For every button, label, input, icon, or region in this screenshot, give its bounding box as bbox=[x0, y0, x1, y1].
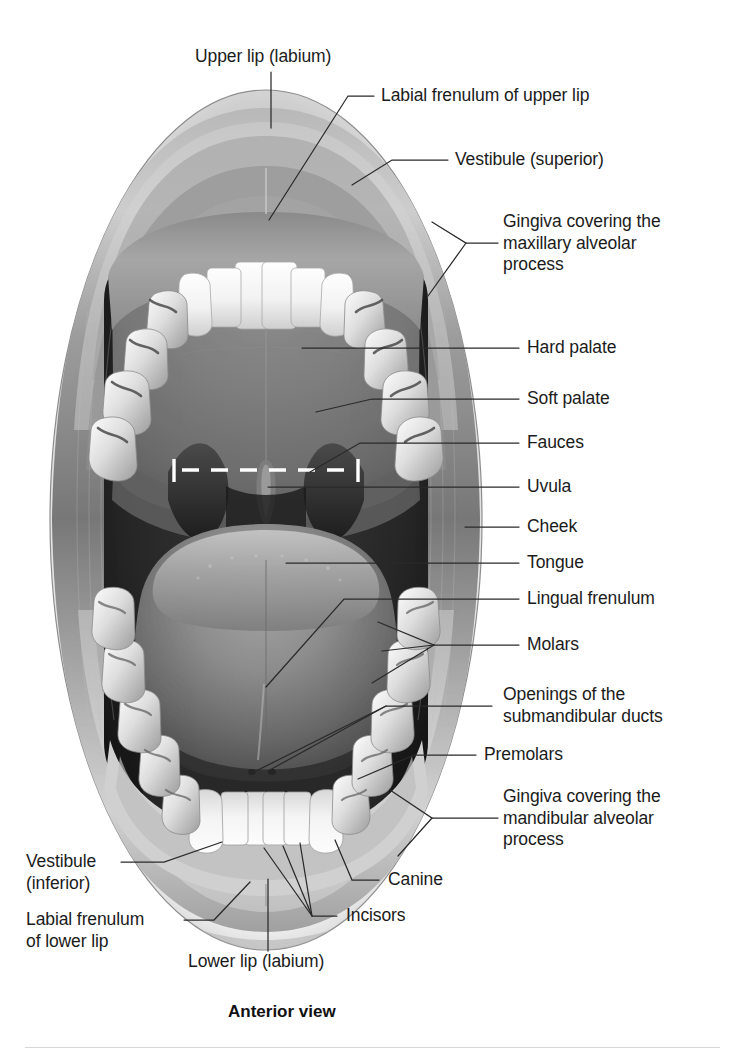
label-uvula: Uvula bbox=[527, 476, 571, 498]
label-gingiva-mandibular-line1: Gingiva covering the bbox=[503, 786, 661, 808]
label-openings-ducts-line2: submandibular ducts bbox=[503, 706, 663, 728]
label-gingiva-maxillary-line1: Gingiva covering the bbox=[503, 211, 661, 233]
label-gingiva-maxillary-line3: process bbox=[503, 254, 661, 276]
label-vestibule-inferior-line2: (inferior) bbox=[26, 873, 96, 895]
label-upper-lip: Upper lip (labium) bbox=[195, 46, 331, 68]
label-vestibule-inferior: Vestibule (inferior) bbox=[26, 851, 96, 894]
label-hard-palate: Hard palate bbox=[527, 337, 616, 359]
label-lingual-frenulum: Lingual frenulum bbox=[527, 588, 655, 610]
label-openings-submandibular-ducts: Openings of the submandibular ducts bbox=[503, 684, 663, 727]
oral-cavity-illustration bbox=[0, 0, 733, 1057]
label-cheek: Cheek bbox=[527, 516, 577, 538]
label-gingiva-maxillary: Gingiva covering the maxillary alveolar … bbox=[503, 211, 661, 276]
label-labial-frenulum-upper: Labial frenulum of upper lip bbox=[381, 85, 589, 107]
label-gingiva-mandibular-line3: process bbox=[503, 829, 661, 851]
footer-divider bbox=[25, 1047, 720, 1048]
label-labial-frenulum-lower-line2: of lower lip bbox=[26, 931, 144, 953]
label-openings-ducts-line1: Openings of the bbox=[503, 684, 663, 706]
label-molars: Molars bbox=[527, 634, 579, 656]
label-gingiva-mandibular: Gingiva covering the mandibular alveolar… bbox=[503, 786, 661, 851]
label-gingiva-mandibular-line2: mandibular alveolar bbox=[503, 808, 661, 830]
label-labial-frenulum-lower: Labial frenulum of lower lip bbox=[26, 909, 144, 952]
label-vestibule-superior: Vestibule (superior) bbox=[455, 149, 604, 171]
label-canine: Canine bbox=[388, 869, 443, 891]
anatomy-figure: Upper lip (labium) Labial frenulum of up… bbox=[0, 0, 733, 1057]
figure-caption: Anterior view bbox=[228, 1002, 336, 1022]
label-fauces: Fauces bbox=[527, 432, 584, 454]
label-lower-lip: Lower lip (labium) bbox=[188, 951, 324, 973]
label-tongue: Tongue bbox=[527, 552, 584, 574]
label-vestibule-inferior-line1: Vestibule bbox=[26, 851, 96, 873]
label-premolars: Premolars bbox=[484, 744, 563, 766]
label-incisors: Incisors bbox=[346, 905, 406, 927]
label-soft-palate: Soft palate bbox=[527, 388, 610, 410]
label-gingiva-maxillary-line2: maxillary alveolar bbox=[503, 233, 661, 255]
label-labial-frenulum-lower-line1: Labial frenulum bbox=[26, 909, 144, 931]
